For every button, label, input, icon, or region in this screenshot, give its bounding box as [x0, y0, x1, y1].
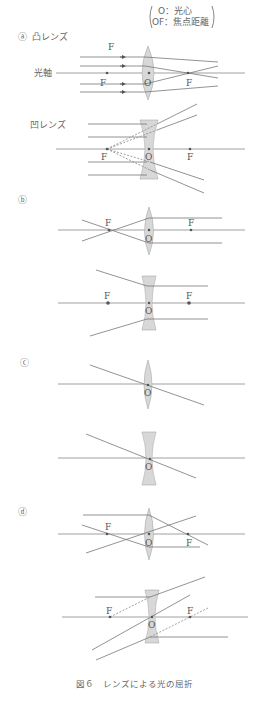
section-a-concave: 凹レンズ F O F — [30, 104, 245, 193]
legend-focal-length: OF：焦点距離 — [152, 16, 209, 27]
focus-label: F — [108, 42, 114, 52]
section-a-marker: ⓐ — [18, 32, 27, 42]
section-d: ⓓ F O F F O F — [18, 507, 248, 660]
svg-text:F: F — [106, 606, 112, 616]
svg-text:F: F — [186, 78, 192, 88]
svg-text:F: F — [187, 606, 193, 616]
section-d-marker: ⓓ — [18, 507, 27, 517]
svg-text:O: O — [144, 388, 151, 398]
svg-text:O: O — [148, 620, 155, 630]
svg-text:O: O — [145, 538, 152, 548]
svg-text:F: F — [187, 152, 193, 162]
svg-text:O: O — [145, 152, 152, 162]
svg-text:F: F — [101, 152, 107, 162]
svg-text:O: O — [145, 306, 152, 316]
figure-caption: 図６ レンズによる光の屈折 — [76, 679, 193, 689]
section-c: ⓒ O O — [20, 358, 245, 485]
optical-axis-label: 光軸 — [34, 67, 52, 78]
svg-text:O: O — [145, 462, 152, 472]
legend-optical-center: O：光心 — [158, 5, 192, 16]
svg-text:F: F — [100, 78, 106, 88]
convex-lens-title: 凸レンズ — [32, 31, 68, 42]
legend: O：光心 OF：焦点距離 — [150, 5, 214, 28]
section-b-marker: ⓑ — [18, 195, 27, 205]
section-a-convex: ⓐ 凸レンズ F 光軸 F O F — [18, 31, 245, 100]
center-label: O — [144, 78, 151, 88]
lens-refraction-diagram: O：光心 OF：焦点距離 ⓐ 凸レンズ F 光軸 F O F 凹レンズ — [0, 0, 270, 721]
section-b: ⓑ F O F F O F — [18, 195, 245, 336]
svg-text:F: F — [104, 291, 110, 301]
svg-text:F: F — [105, 522, 111, 532]
svg-text:F: F — [186, 291, 192, 301]
svg-text:O: O — [145, 234, 152, 244]
section-c-marker: ⓒ — [20, 358, 29, 368]
svg-text:F: F — [188, 218, 194, 228]
svg-text:F: F — [105, 218, 111, 228]
svg-text:F: F — [186, 538, 192, 548]
concave-lens-title: 凹レンズ — [30, 119, 66, 130]
